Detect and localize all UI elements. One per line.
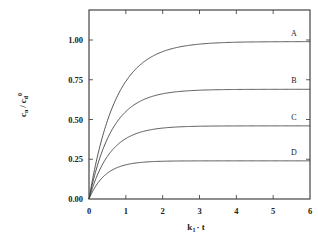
x-tick-label: 5	[271, 206, 275, 216]
curve-b	[89, 89, 310, 199]
curve-a	[89, 42, 310, 199]
y-axis-ticks: 0.000.250.500.751.00	[68, 35, 310, 204]
chart-canvas: 0123456 0.000.250.500.751.00 ABCD k1· t …	[0, 0, 318, 245]
x-tick-label: 6	[308, 206, 312, 216]
curve-label-b: B	[291, 76, 296, 85]
x-tick-label: 0	[87, 206, 91, 216]
curve-label-c: C	[291, 113, 296, 122]
curve-labels: ABCD	[291, 29, 297, 157]
y-tick-label: 0.25	[68, 154, 83, 164]
y-tick-label: 1.00	[68, 35, 83, 45]
curve-c	[89, 126, 310, 199]
x-axis-ticks: 0123456	[87, 10, 312, 216]
x-tick-label: 4	[234, 206, 239, 216]
x-axis-label: k1· t	[187, 222, 204, 233]
curve-label-a: A	[291, 29, 297, 38]
x-tick-label: 2	[161, 206, 165, 216]
x-tick-label: 1	[124, 206, 128, 216]
y-tick-label: 0.75	[68, 75, 83, 85]
y-axis-label: cn/cd0	[17, 93, 29, 117]
curves	[89, 42, 310, 199]
x-tick-label: 3	[197, 206, 201, 216]
y-tick-label: 0.50	[68, 115, 83, 125]
y-tick-label: 0.00	[68, 194, 83, 204]
curve-label-d: D	[291, 148, 297, 157]
plot-border	[89, 10, 310, 199]
curve-d	[89, 161, 310, 199]
plot-frame	[89, 10, 310, 199]
